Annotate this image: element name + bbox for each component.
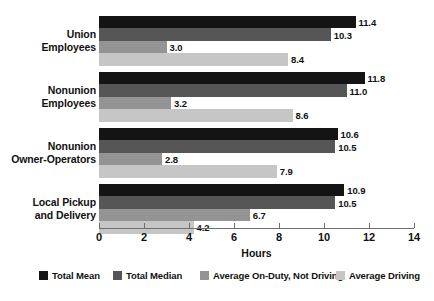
bar-value-label: 10.5	[338, 197, 356, 208]
x-axis-tick	[279, 223, 280, 228]
bar-value-label: 11.0	[350, 85, 368, 96]
bar-group: NonunionEmployees11.811.03.28.6	[0, 72, 434, 122]
bar-value-label: 10.3	[334, 29, 352, 40]
bar-value-label: 10.6	[341, 129, 359, 140]
category-label-line1: Nonunion	[48, 140, 96, 152]
bar[interactable]	[99, 153, 162, 165]
category-label-line2: Employees	[0, 41, 96, 54]
category-label: NonunionOwner-Operators	[0, 140, 96, 165]
bar-row: 10.5	[99, 140, 414, 152]
legend-swatch	[39, 271, 48, 280]
bar-value-label: 10.5	[338, 141, 356, 152]
category-label: Local Pickupand Delivery	[0, 196, 96, 221]
bar-value-label: 10.9	[347, 185, 365, 196]
bar[interactable]	[99, 84, 347, 96]
bar-chart: UnionEmployees11.410.33.08.4NonunionEmpl…	[0, 0, 434, 301]
plot-area: UnionEmployees11.410.33.08.4NonunionEmpl…	[0, 0, 434, 232]
bar-group: UnionEmployees11.410.33.08.4	[0, 16, 434, 66]
x-axis-tick-label: 6	[219, 231, 249, 243]
bar-row: 10.6	[99, 128, 414, 140]
category-label-line2: Owner-Operators	[0, 153, 96, 166]
bar-row: 3.0	[99, 41, 414, 53]
legend-item[interactable]: Average On-Duty, Not Driving	[200, 268, 343, 282]
bar[interactable]	[99, 209, 250, 221]
legend-label: Total Mean	[52, 270, 100, 281]
category-label-line1: Nonunion	[48, 84, 96, 96]
x-axis-tick	[369, 223, 370, 228]
bar-group: NonunionOwner-Operators10.610.52.87.9	[0, 128, 434, 178]
x-axis-tick-label: 14	[399, 231, 429, 243]
bar-row: 2.8	[99, 153, 414, 165]
x-axis-tick	[144, 223, 145, 228]
bar[interactable]	[99, 184, 344, 196]
x-axis-tick-label: 8	[264, 231, 294, 243]
x-axis-tick-label: 0	[84, 231, 114, 243]
x-axis-tick	[234, 223, 235, 228]
category-label: UnionEmployees	[0, 28, 96, 53]
legend-item[interactable]: Average Driving	[336, 268, 420, 282]
bar-row: 3.2	[99, 97, 414, 109]
bar-value-label: 7.9	[280, 166, 293, 177]
bar-value-label: 3.2	[174, 97, 187, 108]
bar[interactable]	[99, 128, 338, 140]
x-axis-line	[99, 228, 414, 229]
legend-item[interactable]: Total Median	[113, 268, 182, 282]
category-label-line1: Local Pickup	[32, 196, 96, 208]
bar[interactable]	[99, 72, 365, 84]
bar-value-label: 8.6	[296, 110, 309, 121]
x-axis-tick-label: 4	[174, 231, 204, 243]
bar-row: 10.5	[99, 196, 414, 208]
bar-value-label: 11.4	[359, 17, 377, 28]
bar-row: 6.7	[99, 209, 414, 221]
bar[interactable]	[99, 109, 293, 121]
x-axis-tick	[189, 223, 190, 228]
bar[interactable]	[99, 196, 335, 208]
category-label: NonunionEmployees	[0, 84, 96, 109]
bar-row: 11.8	[99, 72, 414, 84]
legend-swatch	[200, 271, 209, 280]
category-label-line1: Union	[67, 28, 96, 40]
bar-value-label: 3.0	[170, 41, 183, 52]
x-axis-tick-label: 12	[354, 231, 384, 243]
bar[interactable]	[99, 41, 167, 53]
bar[interactable]	[99, 140, 335, 152]
bar[interactable]	[99, 28, 331, 40]
x-axis-tick	[414, 223, 415, 228]
legend-label: Average On-Duty, Not Driving	[213, 270, 343, 281]
bar-row: 11.4	[99, 16, 414, 28]
legend-swatch	[113, 271, 122, 280]
category-label-line2: and Delivery	[0, 209, 96, 222]
legend-label: Total Median	[126, 270, 182, 281]
bar-value-label: 11.8	[368, 73, 386, 84]
x-axis-tick	[324, 223, 325, 228]
bar-row: 7.9	[99, 165, 414, 177]
bar-value-label: 2.8	[165, 153, 178, 164]
category-label-line2: Employees	[0, 97, 96, 110]
bar-row: 8.4	[99, 53, 414, 65]
x-axis-tick-label: 2	[129, 231, 159, 243]
x-axis-tick-label: 10	[309, 231, 339, 243]
bar-value-label: 6.7	[253, 209, 266, 220]
legend-label: Average Driving	[349, 270, 420, 281]
legend-swatch	[336, 271, 345, 280]
bar-value-label: 8.4	[291, 54, 304, 65]
chart-legend: Total MeanTotal MedianAverage On-Duty, N…	[0, 268, 434, 284]
bar-row: 8.6	[99, 109, 414, 121]
bar[interactable]	[99, 97, 171, 109]
x-axis: 02468101214 Hours	[0, 228, 434, 268]
bar-row: 11.0	[99, 84, 414, 96]
bar-row: 10.3	[99, 28, 414, 40]
x-axis-tick	[99, 223, 100, 228]
legend-item[interactable]: Total Mean	[39, 268, 100, 282]
bar[interactable]	[99, 16, 356, 28]
bar[interactable]	[99, 165, 277, 177]
bar-row: 10.9	[99, 184, 414, 196]
x-axis-title: Hours	[99, 247, 414, 259]
bar[interactable]	[99, 53, 288, 65]
